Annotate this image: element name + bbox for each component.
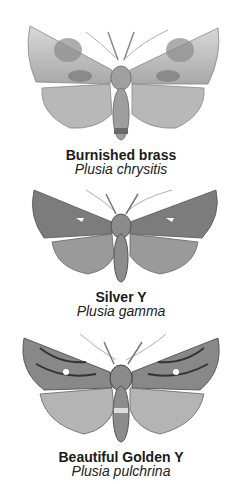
moth-illustration-burnished-brass: [0, 14, 242, 146]
latin-name-2: Plusia gamma: [0, 304, 242, 319]
latin-name-1: Plusia chrysitis: [0, 162, 242, 177]
moth-illustration-silver-y: [0, 182, 242, 286]
moth-illustration-beautiful-golden-y: [0, 330, 242, 446]
latin-name-3: Plusia pulchrina: [0, 464, 242, 479]
